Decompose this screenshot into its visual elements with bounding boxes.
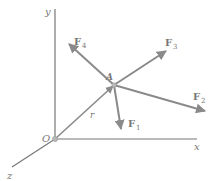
- svg-text:F: F: [74, 36, 81, 47]
- point-a-dot: [112, 83, 116, 87]
- svg-text:4: 4: [82, 42, 87, 50]
- point-a-label: A: [105, 72, 113, 82]
- position-vector-label: r: [90, 110, 95, 120]
- origin-point: [52, 136, 57, 141]
- force-diagram: y x z O A r F 4 F 3 F 2 F 1: [0, 0, 212, 181]
- svg-text:F: F: [193, 91, 200, 102]
- force-f3-label: F 3: [165, 37, 177, 51]
- force-f1-label: F 1: [128, 118, 140, 132]
- y-axis-label: y: [44, 6, 51, 17]
- force-f2-label: F 2: [193, 91, 205, 105]
- z-axis-label: z: [6, 170, 13, 181]
- origin-label: O: [42, 133, 50, 144]
- svg-text:2: 2: [201, 97, 205, 105]
- force-f4-label: F 4: [74, 36, 87, 50]
- svg-text:F: F: [165, 37, 172, 48]
- svg-text:F: F: [128, 118, 135, 129]
- position-vector-r: [55, 86, 113, 139]
- force-f1-arrow: [114, 85, 121, 129]
- diagram-canvas: y x z O A r F 4 F 3 F 2 F 1: [0, 0, 212, 181]
- svg-text:3: 3: [173, 43, 177, 51]
- force-f3-arrow: [114, 51, 166, 85]
- force-f2-arrow: [114, 85, 205, 111]
- svg-text:1: 1: [136, 124, 140, 132]
- x-axis-label: x: [194, 141, 200, 152]
